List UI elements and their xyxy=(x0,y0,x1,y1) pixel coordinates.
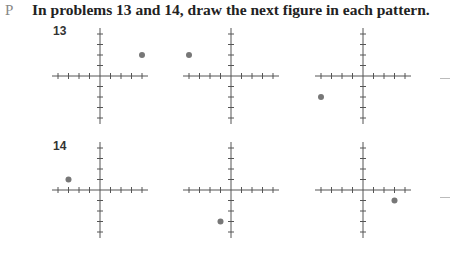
plotted-point xyxy=(218,219,224,225)
instruction-text: In problems 13 and 14, draw the next fig… xyxy=(32,1,430,19)
page-marker: P xyxy=(5,2,13,19)
coordinate-grid-14-3 xyxy=(313,140,413,240)
page-edge-mark xyxy=(440,197,450,198)
plotted-point xyxy=(392,198,398,204)
coordinate-grid-13-3 xyxy=(313,26,413,126)
coordinate-grid-14-2 xyxy=(181,140,281,240)
plotted-point xyxy=(66,177,72,183)
coordinate-grid-13-1 xyxy=(50,26,150,126)
coordinate-grid-14-1 xyxy=(50,140,150,240)
page-edge-mark xyxy=(440,78,450,79)
coordinate-grid-13-2 xyxy=(181,26,281,126)
plotted-point xyxy=(139,52,145,58)
plotted-point xyxy=(186,52,192,58)
plotted-point xyxy=(318,94,324,100)
